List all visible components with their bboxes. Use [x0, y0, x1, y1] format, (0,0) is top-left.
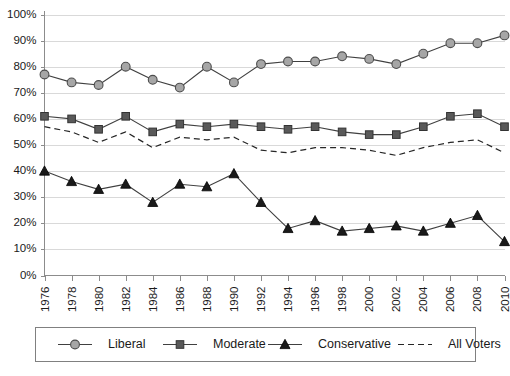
chart-container: 0%10%20%30%40%50%60%70%80%90%100% 197619…	[0, 0, 510, 376]
y-tick-label: 40%	[13, 164, 36, 176]
y-tick-labels: 0%10%20%30%40%50%60%70%80%90%100%	[7, 8, 36, 281]
data-point-conservative	[121, 179, 131, 188]
data-point-moderate	[203, 123, 211, 131]
data-point-conservative	[310, 215, 320, 224]
data-point-conservative	[175, 179, 185, 188]
y-tick-label: 10%	[13, 242, 36, 254]
circle-icon	[71, 340, 80, 349]
y-tick-label: 50%	[13, 138, 36, 150]
data-point-moderate	[365, 131, 373, 139]
data-point-liberal	[446, 39, 455, 48]
series-conservative	[40, 166, 510, 246]
series-line-all-voters	[45, 127, 505, 156]
series-line-moderate	[45, 114, 505, 135]
legend-label: Moderate	[213, 337, 266, 351]
legend: LiberalModerateConservativeAll Voters	[36, 328, 501, 362]
square-icon	[176, 341, 184, 349]
data-point-conservative	[229, 169, 239, 178]
x-tick-label: 1992	[255, 287, 267, 313]
data-point-moderate	[122, 113, 130, 121]
data-point-conservative	[391, 221, 401, 230]
x-tick-label: 2002	[390, 287, 402, 313]
x-tick-label: 1976	[39, 287, 51, 313]
x-tick-label: 1990	[228, 287, 240, 313]
data-point-liberal	[284, 57, 293, 66]
data-point-liberal	[94, 81, 103, 90]
y-tick-label: 90%	[13, 34, 36, 46]
data-point-moderate	[176, 120, 184, 128]
x-axis	[45, 276, 506, 281]
data-point-moderate	[311, 123, 319, 131]
data-point-moderate	[420, 123, 428, 131]
y-tick-label: 60%	[13, 112, 36, 124]
x-tick-label: 1994	[282, 286, 294, 312]
x-tick-label: 1978	[66, 287, 78, 313]
data-point-moderate	[149, 128, 157, 136]
data-point-liberal	[500, 31, 509, 40]
y-tick-label: 20%	[13, 216, 36, 228]
x-tick-label: 1980	[93, 287, 105, 313]
data-point-liberal	[365, 55, 374, 64]
data-point-liberal	[473, 39, 482, 48]
x-tick-label: 2008	[471, 287, 483, 313]
data-point-liberal	[40, 70, 49, 79]
x-tick-label: 1998	[336, 287, 348, 313]
data-point-liberal	[338, 52, 347, 61]
x-tick-label: 2004	[417, 286, 429, 312]
series-liberal	[40, 31, 509, 92]
data-point-moderate	[41, 113, 49, 121]
x-tick-label: 1984	[147, 286, 159, 312]
data-point-liberal	[311, 57, 320, 66]
legend-label: All Voters	[448, 337, 501, 351]
data-point-moderate	[230, 120, 238, 128]
y-tick-label: 80%	[13, 60, 36, 72]
data-point-liberal	[392, 60, 401, 69]
data-point-liberal	[257, 60, 266, 69]
x-tick-label: 2006	[444, 287, 456, 313]
data-point-liberal	[175, 83, 184, 92]
legend-label: Liberal	[108, 337, 146, 351]
data-point-moderate	[68, 115, 76, 123]
y-axis	[41, 11, 45, 277]
y-tick-label: 100%	[7, 8, 36, 20]
line-chart: 0%10%20%30%40%50%60%70%80%90%100% 197619…	[0, 0, 510, 376]
data-point-conservative	[148, 197, 158, 206]
gridlines	[45, 16, 505, 250]
x-tick-label: 2000	[363, 287, 375, 313]
data-point-liberal	[419, 49, 428, 58]
data-point-moderate	[257, 123, 265, 131]
data-point-liberal	[148, 75, 157, 84]
data-point-moderate	[284, 126, 292, 134]
legend-label: Conservative	[318, 337, 391, 351]
data-point-moderate	[393, 131, 401, 139]
x-tick-label: 2010	[499, 287, 510, 313]
y-tick-label: 30%	[13, 190, 36, 202]
series-moderate	[41, 110, 509, 139]
data-point-conservative	[67, 176, 77, 185]
y-tick-label: 70%	[13, 86, 36, 98]
data-point-moderate	[474, 110, 482, 118]
data-point-liberal	[67, 78, 76, 87]
y-tick-label: 0%	[20, 269, 37, 281]
data-point-moderate	[338, 128, 346, 136]
data-point-conservative	[40, 166, 50, 175]
data-point-liberal	[121, 62, 130, 71]
data-point-conservative	[472, 210, 482, 219]
x-tick-labels: 1976197819801982198419861988199019921994…	[39, 286, 510, 312]
series-line-conservative	[45, 171, 505, 242]
x-tick-label: 1988	[201, 287, 213, 313]
data-point-liberal	[203, 62, 212, 71]
series-line-liberal	[45, 35, 505, 87]
x-tick-label: 1986	[174, 287, 186, 313]
x-tick-label: 1996	[309, 287, 321, 313]
series-all-voters	[45, 127, 505, 156]
data-point-liberal	[230, 78, 239, 87]
x-tick-label: 1982	[120, 287, 132, 313]
data-point-moderate	[95, 126, 103, 134]
data-point-moderate	[447, 113, 455, 121]
data-point-moderate	[501, 123, 509, 131]
